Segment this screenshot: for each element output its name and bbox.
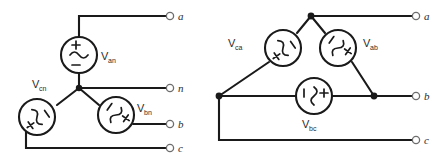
label-vab-sub: ab xyxy=(370,44,378,51)
delta-connected-source: V ca V ab V xyxy=(216,10,430,146)
wye-neutral-node xyxy=(76,85,82,91)
label-vbn-sub: bn xyxy=(144,109,152,116)
delta-node-b xyxy=(371,93,378,100)
source-vbc[interactable] xyxy=(296,78,332,114)
terminal-delta-a[interactable] xyxy=(412,12,419,19)
terminal-wye-c[interactable] xyxy=(166,144,173,151)
terminal-label-wye-c: c xyxy=(178,142,183,154)
delta-wire-vca-to-c xyxy=(219,62,269,96)
source-vcn[interactable] xyxy=(19,99,55,135)
wye-connected-source: V an V bn V xyxy=(19,10,184,154)
circuit-diagram-svg: V an V bn V xyxy=(0,0,447,163)
delta-node-a xyxy=(308,13,315,20)
label-vcn-sub: cn xyxy=(39,85,47,92)
terminal-label-wye-a: a xyxy=(178,10,184,22)
terminal-label-delta-b: b xyxy=(424,90,430,102)
delta-node-c xyxy=(216,93,223,100)
delta-wire-vab-to-b xyxy=(352,62,374,96)
figure-canvas: V an V bn V xyxy=(0,0,447,163)
label-van-sub: an xyxy=(108,57,116,64)
terminal-label-wye-n: n xyxy=(178,82,184,94)
wye-wire-neutral-to-vcn xyxy=(57,88,79,105)
source-vca[interactable] xyxy=(265,30,301,66)
label-vbc-sub: bc xyxy=(309,125,317,132)
terminal-wye-n[interactable] xyxy=(166,84,173,91)
source-vab[interactable] xyxy=(320,30,356,66)
wye-wire-phase-a xyxy=(79,16,166,37)
terminal-delta-b[interactable] xyxy=(412,92,419,99)
terminal-delta-c[interactable] xyxy=(412,136,419,143)
source-van[interactable] xyxy=(61,37,97,73)
terminal-wye-a[interactable] xyxy=(166,12,173,19)
terminal-wye-b[interactable] xyxy=(166,120,173,127)
label-vca-sub: ca xyxy=(235,44,243,51)
terminal-label-delta-a: a xyxy=(424,10,430,22)
wye-wire-neutral-to-vbn xyxy=(79,88,99,105)
terminal-label-delta-c: c xyxy=(424,134,429,146)
terminal-label-wye-b: b xyxy=(178,118,184,130)
source-vbn[interactable] xyxy=(98,97,134,133)
